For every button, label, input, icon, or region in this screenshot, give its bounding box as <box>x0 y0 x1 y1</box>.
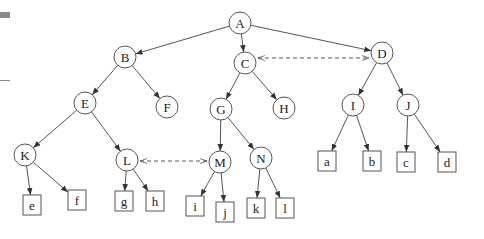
node-label: d <box>444 155 451 170</box>
node-label: h <box>152 194 159 209</box>
edge-M-j <box>221 173 224 202</box>
internal-node-N: N <box>250 147 272 169</box>
node-label: F <box>163 100 170 115</box>
node-label: c <box>403 155 409 170</box>
node-label: N <box>256 151 266 166</box>
leaf-node-k: k <box>247 198 265 218</box>
leaf-node-b: b <box>363 151 381 171</box>
leaf-node-f: f <box>68 190 86 210</box>
node-label: E <box>81 96 89 111</box>
leaf-node-d: d <box>438 152 456 172</box>
node-label: J <box>405 98 410 113</box>
tree-canvas: ABCDEFGHIJKLMNefghijklabcd <box>0 0 484 239</box>
edge-K-e <box>27 166 31 195</box>
edge-B-F <box>132 65 160 98</box>
node-label: L <box>123 153 131 168</box>
node-label: a <box>324 154 330 169</box>
internal-node-H: H <box>273 97 295 119</box>
edge-N-k <box>257 169 260 198</box>
leaf-node-c: c <box>397 152 415 172</box>
node-label: K <box>20 148 30 163</box>
edge-D-J <box>387 63 403 95</box>
node-label: j <box>222 205 227 220</box>
tree-diagram: ABCDEFGHIJKLMNefghijklabcd <box>0 0 484 239</box>
edge-I-b <box>357 115 369 151</box>
internal-node-M: M <box>209 151 231 173</box>
edge-B-E <box>92 65 118 94</box>
edge-A-C <box>241 34 243 52</box>
edge-J-d <box>414 114 440 152</box>
leaf-node-e: e <box>23 195 41 215</box>
node-label: f <box>75 193 80 208</box>
leaf-node-j: j <box>216 202 234 222</box>
node-label: M <box>214 155 226 170</box>
edge-G-N <box>228 118 254 150</box>
leaf-node-l: l <box>276 198 294 218</box>
edge-L-h <box>133 169 148 191</box>
internal-node-C: C <box>234 52 256 74</box>
internal-node-A: A <box>229 12 251 34</box>
internal-node-G: G <box>210 98 232 120</box>
edge-M-i <box>201 172 215 196</box>
node-label: C <box>241 56 250 71</box>
node-label: I <box>351 98 355 113</box>
node-label: D <box>377 46 386 61</box>
leaf-node-h: h <box>146 191 164 211</box>
edge-C-G <box>226 73 240 99</box>
edge-C-H <box>252 71 277 99</box>
leaf-node-g: g <box>115 191 133 211</box>
edge-J-c <box>406 116 407 152</box>
leaf-node-i: i <box>186 196 204 216</box>
edge-G-M <box>220 120 221 151</box>
edge-L-g <box>125 171 126 191</box>
node-label: l <box>283 201 287 216</box>
edge-N-l <box>266 168 280 198</box>
node-label: G <box>216 102 225 117</box>
internal-node-K: K <box>14 144 36 166</box>
edge-K-f <box>33 162 68 192</box>
node-label: H <box>279 101 288 116</box>
node-label: b <box>369 154 376 169</box>
internal-node-E: E <box>74 92 96 114</box>
edge-D-I <box>358 63 376 96</box>
edge-E-K <box>33 110 76 148</box>
leaf-node-a: a <box>318 151 336 171</box>
internal-node-L: L <box>116 149 138 171</box>
node-label: A <box>235 16 245 31</box>
node-label: e <box>29 198 35 213</box>
node-label: g <box>121 194 128 209</box>
internal-node-D: D <box>371 42 393 64</box>
decorative-bar-bottom <box>0 80 10 81</box>
edge-E-L <box>92 112 121 151</box>
edge-I-a <box>332 115 349 151</box>
edge-A-B <box>136 26 230 54</box>
decorative-bar-top <box>0 12 10 18</box>
nodes-layer: ABCDEFGHIJKLMNefghijklabcd <box>14 12 456 222</box>
node-label: B <box>121 50 130 65</box>
internal-node-F: F <box>156 96 178 118</box>
internal-node-I: I <box>342 94 364 116</box>
node-label: i <box>193 199 197 214</box>
edge-A-D <box>251 25 371 50</box>
node-label: k <box>253 201 260 216</box>
internal-node-B: B <box>114 46 136 68</box>
internal-node-J: J <box>397 94 419 116</box>
